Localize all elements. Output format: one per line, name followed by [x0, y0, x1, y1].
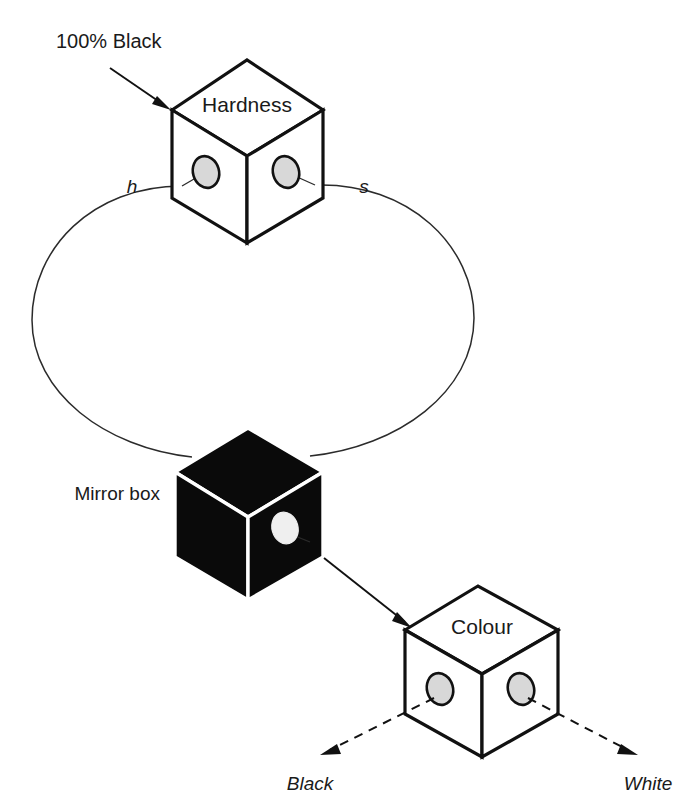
- mirror-box-label: Mirror box: [74, 483, 160, 504]
- colour-cube-label: Colour: [451, 615, 513, 638]
- hardness-cube-label: Hardness: [202, 93, 292, 116]
- diagram-svg: Hardness h s 100% Black Mirror box: [0, 0, 679, 812]
- colour-to-black-dashed-line: [330, 698, 434, 750]
- loop-right-curve: [32, 186, 192, 457]
- callout-label: 100% Black: [56, 30, 163, 52]
- mirror-to-colour-line: [324, 558, 405, 622]
- mirror-box-cube[interactable]: Mirror box: [74, 428, 323, 600]
- mirror-to-colour-connector: [324, 558, 412, 628]
- hardness-cube[interactable]: Hardness: [172, 60, 323, 243]
- loop-left-curve: [310, 185, 474, 456]
- callout-100-percent-black: 100% Black: [56, 30, 171, 110]
- colour-to-black-arrow-head: [320, 744, 341, 755]
- axis-label-black: Black: [287, 773, 335, 794]
- port-label-s: s: [359, 176, 369, 197]
- axis-label-white: White: [624, 773, 673, 794]
- port-label-h: h: [127, 176, 138, 197]
- colour-cube[interactable]: Colour: [405, 586, 558, 757]
- diagram-canvas: Hardness h s 100% Black Mirror box: [0, 0, 679, 812]
